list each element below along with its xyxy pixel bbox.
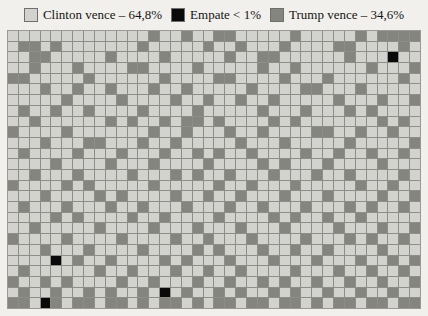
cell-clinton (388, 213, 398, 223)
cell-empate (41, 298, 51, 308)
cell-clinton (30, 202, 40, 212)
cell-clinton (367, 84, 377, 94)
cell-clinton (236, 256, 246, 266)
cell-clinton (280, 288, 290, 298)
cell-trump (106, 256, 116, 266)
cell-clinton (204, 74, 214, 84)
cell-clinton (301, 52, 311, 62)
cell-clinton (356, 63, 366, 73)
cell-clinton (410, 213, 420, 223)
cell-clinton (8, 138, 18, 148)
cell-clinton (345, 266, 355, 276)
cell-clinton (236, 149, 246, 159)
legend-item-trump[interactable]: Trump vence – 34,6% (270, 8, 404, 22)
cell-trump (8, 234, 18, 244)
cell-clinton (356, 106, 366, 116)
cell-trump (291, 245, 301, 255)
cell-clinton (30, 277, 40, 287)
cell-clinton (345, 31, 355, 41)
cell-clinton (236, 213, 246, 223)
cell-clinton (19, 127, 29, 137)
cell-clinton (399, 223, 409, 233)
cell-clinton (138, 149, 148, 159)
cell-clinton (312, 117, 322, 127)
cell-trump (214, 117, 224, 127)
cell-trump (334, 95, 344, 105)
legend-label-clinton: Clinton vence – 64,8% (43, 8, 162, 22)
cell-clinton (193, 138, 203, 148)
cell-clinton (193, 52, 203, 62)
cell-trump (367, 63, 377, 73)
cell-trump (334, 223, 344, 233)
cell-trump (280, 277, 290, 287)
cell-clinton (95, 52, 105, 62)
cell-trump (138, 138, 148, 148)
cell-clinton (149, 52, 159, 62)
cell-clinton (128, 191, 138, 201)
cell-clinton (84, 52, 94, 62)
cell-clinton (182, 223, 192, 233)
cell-clinton (171, 202, 181, 212)
cell-clinton (19, 84, 29, 94)
cell-trump (258, 245, 268, 255)
cell-clinton (8, 84, 18, 94)
cell-clinton (367, 191, 377, 201)
cell-clinton (128, 149, 138, 159)
legend-item-clinton[interactable]: Clinton vence – 64,8% (24, 8, 162, 22)
cell-clinton (367, 31, 377, 41)
cell-clinton (149, 95, 159, 105)
cell-clinton (399, 213, 409, 223)
legend-label-empate: Empate < 1% (190, 8, 261, 22)
cell-clinton (388, 223, 398, 233)
cell-clinton (291, 42, 301, 52)
cell-trump (225, 170, 235, 180)
cell-clinton (291, 138, 301, 148)
cell-clinton (171, 213, 181, 223)
cell-trump (399, 31, 409, 41)
cell-clinton (225, 223, 235, 233)
cell-trump (291, 288, 301, 298)
cell-clinton (258, 181, 268, 191)
cell-clinton (301, 288, 311, 298)
cell-clinton (30, 234, 40, 244)
cell-clinton (323, 52, 333, 62)
cell-clinton (378, 74, 388, 84)
cell-trump (160, 52, 170, 62)
cell-clinton (334, 159, 344, 169)
cell-clinton (323, 234, 333, 244)
cell-clinton (334, 245, 344, 255)
cell-clinton (225, 159, 235, 169)
cell-trump (160, 298, 170, 308)
legend-item-empate[interactable]: Empate < 1% (171, 8, 261, 22)
cell-trump (160, 213, 170, 223)
cell-trump (30, 52, 40, 62)
cell-clinton (225, 245, 235, 255)
cell-clinton (204, 298, 214, 308)
cell-clinton (225, 181, 235, 191)
cell-trump (399, 234, 409, 244)
cell-trump (117, 95, 127, 105)
cell-clinton (149, 117, 159, 127)
cell-clinton (204, 181, 214, 191)
cell-trump (106, 84, 116, 94)
cell-clinton (323, 106, 333, 116)
cell-clinton (117, 256, 127, 266)
cell-clinton (193, 95, 203, 105)
cell-trump (291, 213, 301, 223)
cell-trump (51, 106, 61, 116)
cell-clinton (95, 63, 105, 73)
cell-clinton (367, 42, 377, 52)
cell-clinton (8, 52, 18, 62)
cell-clinton (128, 84, 138, 94)
cell-clinton (345, 213, 355, 223)
cell-trump (280, 138, 290, 148)
cell-clinton (269, 106, 279, 116)
cell-trump (204, 234, 214, 244)
cell-clinton (19, 52, 29, 62)
cell-clinton (84, 223, 94, 233)
cell-trump (247, 149, 257, 159)
cell-clinton (399, 52, 409, 62)
cell-clinton (247, 42, 257, 52)
cell-trump (367, 202, 377, 212)
cell-trump (19, 266, 29, 276)
